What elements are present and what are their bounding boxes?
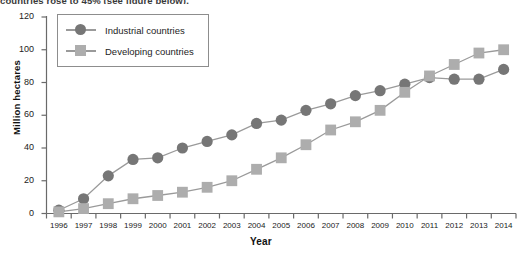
data-point-circle <box>202 136 213 147</box>
data-point-circle <box>374 85 385 96</box>
y-tick-label: 80 <box>8 77 34 87</box>
chart-figure: countries rose to 45% (see figure below)… <box>0 0 522 255</box>
data-point-circle <box>152 152 163 163</box>
data-point-square <box>474 48 485 59</box>
y-tick-label: 40 <box>8 142 34 152</box>
circle-marker-icon <box>75 24 86 35</box>
legend-item-developing-countries: Developing countries <box>66 43 194 59</box>
data-point-square <box>78 203 89 214</box>
data-point-square <box>202 182 213 193</box>
data-point-circle <box>226 129 237 140</box>
data-point-square <box>399 87 410 98</box>
legend-label-developing-countries: Developing countries <box>105 46 194 57</box>
legend-line-sample <box>66 50 96 52</box>
y-tick-label: 60 <box>8 109 34 119</box>
data-point-circle <box>78 193 89 204</box>
legend-line-sample <box>66 29 96 31</box>
data-point-circle <box>177 142 188 153</box>
data-point-circle <box>300 105 311 116</box>
y-tick-label: 120 <box>8 11 34 21</box>
data-series-group <box>53 44 509 217</box>
data-point-square <box>498 44 509 55</box>
data-point-square <box>128 193 139 204</box>
data-point-circle <box>276 115 287 126</box>
data-point-square <box>251 164 262 175</box>
data-point-circle <box>350 90 361 101</box>
x-tick-label: 2014 <box>489 221 519 230</box>
data-point-square <box>276 152 287 163</box>
data-point-circle <box>103 170 114 181</box>
y-tick-label: 0 <box>8 208 34 218</box>
square-marker-icon <box>75 45 86 56</box>
y-axis-ticks <box>42 17 47 214</box>
chart-legend: Industrial countries Developing countrie… <box>57 14 209 67</box>
y-tick-label: 100 <box>8 44 34 54</box>
data-point-circle <box>251 118 262 129</box>
data-point-square <box>375 105 386 116</box>
series-line <box>59 50 504 212</box>
data-point-circle <box>473 74 484 85</box>
series-line <box>59 69 504 210</box>
legend-item-industrial-countries: Industrial countries <box>66 22 185 38</box>
data-point-square <box>53 206 64 217</box>
legend-label-industrial-countries: Industrial countries <box>105 25 185 36</box>
data-point-circle <box>325 98 336 109</box>
data-point-square <box>350 116 361 127</box>
data-point-circle <box>449 74 460 85</box>
data-point-square <box>226 175 237 186</box>
data-point-square <box>301 139 312 150</box>
data-point-circle <box>127 154 138 165</box>
data-point-square <box>424 71 435 82</box>
y-tick-label: 20 <box>8 175 34 185</box>
data-point-square <box>325 125 336 136</box>
data-point-square <box>449 59 460 70</box>
data-point-square <box>103 198 114 209</box>
data-point-square <box>177 187 188 198</box>
data-point-square <box>152 190 163 201</box>
data-point-circle <box>498 64 509 75</box>
x-axis-ticks <box>47 214 517 219</box>
